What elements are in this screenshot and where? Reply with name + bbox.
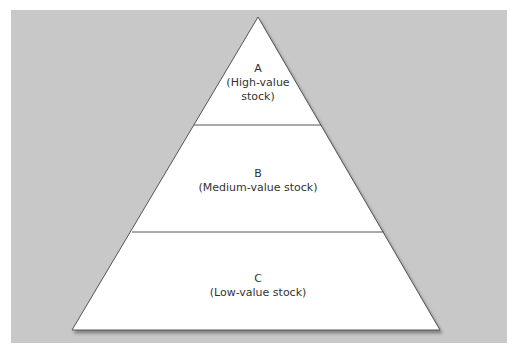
level-c-letter: C [158,272,358,286]
level-b-description: (Medium-value stock) [158,181,358,195]
level-c-label: C (Low-value stock) [158,272,358,300]
level-a-desc-line1: (High-value [208,76,308,90]
level-a-letter: A [208,62,308,76]
level-b-label: B (Medium-value stock) [158,167,358,195]
level-a-label: A (High-value stock) [208,62,308,104]
level-b-letter: B [158,167,358,181]
level-a-desc-line2: stock) [208,90,308,104]
level-c-description: (Low-value stock) [158,286,358,300]
